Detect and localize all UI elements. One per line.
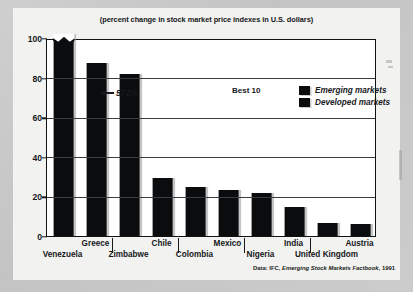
bar-chile: [152, 178, 173, 236]
scan-artifact: [399, 150, 402, 180]
x-axis-label-india: India: [284, 239, 303, 248]
axis-break-zigzag-icon: [52, 31, 75, 42]
legend-item-developed: Developed markets: [299, 98, 390, 107]
y-axis-tick-label: 0: [8, 232, 42, 242]
chart-title: (percent change in stock market price in…: [13, 15, 400, 24]
x-axis-label-austria: Austria: [345, 239, 373, 248]
y-axis-tick-label: 80: [8, 74, 42, 84]
source-title: Emerging Stock Markets Factbook: [282, 265, 379, 271]
x-axis-label-zimbabwe: Zimbabwe: [108, 250, 148, 259]
bar-slot: [80, 40, 113, 236]
y-axis-tick-label: 20: [8, 192, 42, 202]
gridline: [47, 157, 375, 158]
bar-slot: [113, 40, 146, 236]
x-axis-label-mexico: Mexico: [214, 239, 242, 248]
legend-swatch-icon: [299, 98, 310, 107]
legend-label: Emerging markets: [315, 86, 386, 95]
scan-artifact: [386, 60, 392, 63]
source-note: Data: IFC, Emerging Stock Markets Factbo…: [253, 265, 395, 271]
legend-swatch-icon: [299, 86, 310, 95]
bar-slot: [344, 40, 377, 236]
source-prefix: Data: IFC,: [253, 265, 282, 271]
gridline: [47, 197, 375, 198]
bar-venezuela: [53, 34, 74, 236]
bar-series: [47, 40, 375, 236]
x-axis-label-united-kingdom: United Kingdom: [295, 250, 358, 259]
x-axis-label-venezuela: Venezuela: [43, 250, 83, 259]
y-axis-tick-label: 40: [8, 153, 42, 163]
y-axis-tick-label: 100: [8, 34, 42, 44]
x-axis-separator: [244, 238, 245, 253]
x-axis-label-colombia: Colombia: [176, 250, 213, 259]
gridline: [47, 78, 375, 79]
bar-slot: [179, 40, 212, 236]
group-label-best-10: Best 10: [232, 86, 260, 95]
bar-austria: [350, 224, 371, 236]
legend-item-emerging: Emerging markets: [299, 86, 390, 95]
bar-nigeria: [251, 193, 272, 236]
y-axis-tick-label: 60: [8, 113, 42, 123]
source-suffix: , 1991: [379, 265, 395, 271]
x-axis-labels: VenezuelaGreeceZimbabweChileColombiaMexi…: [46, 237, 376, 267]
legend: Emerging markets Developed markets: [299, 86, 390, 109]
leader-line: [101, 92, 114, 94]
bar-slot: [47, 40, 80, 236]
legend-label: Developed markets: [315, 98, 390, 107]
bar-slot: [212, 40, 245, 236]
x-axis-label-chile: Chile: [151, 239, 171, 248]
bar-united-kingdom: [317, 223, 338, 236]
bar-slot: [311, 40, 344, 236]
x-axis-label-greece: Greece: [82, 239, 110, 248]
annotation-value: 572%: [116, 88, 138, 98]
bar-slot: [146, 40, 179, 236]
x-axis-label-nigeria: Nigeria: [247, 250, 275, 259]
y-axis: 020406080100: [0, 39, 42, 237]
value-annotation-venezuela: 572%: [101, 88, 138, 98]
scan-artifact: [388, 66, 393, 68]
bar-india: [284, 207, 305, 236]
plot-area: 572% Best 10 Emerging markets Developed …: [46, 39, 376, 237]
bar-slot: [278, 40, 311, 236]
bar-slot: [245, 40, 278, 236]
gridline: [47, 118, 375, 119]
bar-colombia: [185, 187, 206, 237]
